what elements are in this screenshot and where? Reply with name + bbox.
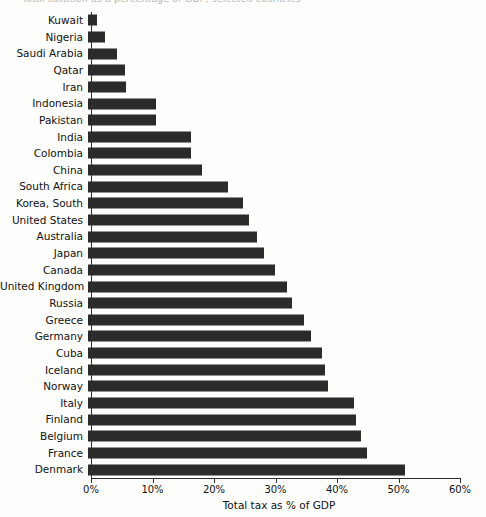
bar-chart-figure: Total taxation as a percentage of GDP, s… <box>0 0 486 517</box>
bar-row: Germany <box>0 328 486 345</box>
bar-track <box>88 62 486 79</box>
category-label: Belgium <box>0 431 88 442</box>
category-label: Greece <box>0 315 88 326</box>
bar-track <box>88 145 486 162</box>
category-label: India <box>0 132 88 143</box>
bar <box>88 464 405 475</box>
bar-track <box>88 411 486 428</box>
category-label: Japan <box>0 248 88 259</box>
category-label: Saudi Arabia <box>0 48 88 59</box>
bar-row: Denmark <box>0 461 486 478</box>
bar-row: Canada <box>0 262 486 279</box>
x-tick-mark <box>460 478 461 483</box>
bar-track <box>88 79 486 96</box>
category-label: Colombia <box>0 148 88 159</box>
category-label: Canada <box>0 265 88 276</box>
bar-row: Belgium <box>0 428 486 445</box>
bar <box>88 181 228 192</box>
bar-row: United Kingdom <box>0 278 486 295</box>
bar-track <box>88 328 486 345</box>
x-tick-mark <box>214 478 215 483</box>
bar <box>88 364 325 375</box>
x-tick-mark <box>337 478 338 483</box>
category-label: Norway <box>0 381 88 392</box>
category-label: Australia <box>0 231 88 242</box>
chart-title: Total taxation as a percentage of GDP, s… <box>22 0 301 4</box>
bar <box>88 65 125 76</box>
bar-row: Italy <box>0 395 486 412</box>
bar <box>88 348 322 359</box>
bar <box>88 431 361 442</box>
bar-track <box>88 228 486 245</box>
bar <box>88 98 156 109</box>
bar <box>88 165 202 176</box>
bar <box>88 398 354 409</box>
bar-row: Norway <box>0 378 486 395</box>
bar-track <box>88 95 486 112</box>
bar-row: United States <box>0 212 486 229</box>
bar <box>88 215 249 226</box>
bar-rows: KuwaitNigeriaSaudi ArabiaQatarIranIndone… <box>0 12 486 478</box>
x-tick-mark <box>153 478 154 483</box>
category-label: Finland <box>0 414 88 425</box>
x-tick-label: 0% <box>83 484 99 495</box>
bar-track <box>88 178 486 195</box>
bar-track <box>88 262 486 279</box>
category-label: Italy <box>0 398 88 409</box>
y-axis-line <box>91 12 92 478</box>
bar-row: Russia <box>0 295 486 312</box>
x-tick-label: 30% <box>264 484 286 495</box>
category-label: France <box>0 448 88 459</box>
bar-track <box>88 428 486 445</box>
bar-track <box>88 445 486 462</box>
bar-row: Pakistan <box>0 112 486 129</box>
bar-track <box>88 345 486 362</box>
bar-track <box>88 12 486 29</box>
category-label: United States <box>0 215 88 226</box>
bar-row: Saudi Arabia <box>0 45 486 62</box>
category-label: Pakistan <box>0 115 88 126</box>
plot-area: KuwaitNigeriaSaudi ArabiaQatarIranIndone… <box>0 12 486 478</box>
category-label: Indonesia <box>0 98 88 109</box>
x-tick-mark <box>399 478 400 483</box>
bar <box>88 231 257 242</box>
bar <box>88 248 264 259</box>
bar-track <box>88 461 486 478</box>
bar-row: Greece <box>0 312 486 329</box>
bar-track <box>88 361 486 378</box>
x-tick-label: 60% <box>449 484 471 495</box>
bar-row: Colombia <box>0 145 486 162</box>
bar-track <box>88 395 486 412</box>
bar-row: Finland <box>0 411 486 428</box>
bar-track <box>88 378 486 395</box>
category-label: Qatar <box>0 65 88 76</box>
category-label: United Kingdom <box>0 281 88 292</box>
bar-row: China <box>0 162 486 179</box>
category-label: Russia <box>0 298 88 309</box>
bar-track <box>88 162 486 179</box>
bar <box>88 414 356 425</box>
bar-row: Kuwait <box>0 12 486 29</box>
bar-row: Iceland <box>0 361 486 378</box>
bar-row: France <box>0 445 486 462</box>
bar <box>88 314 304 325</box>
bar <box>88 264 275 275</box>
bar-row: Indonesia <box>0 95 486 112</box>
bar-track <box>88 29 486 46</box>
category-label: Germany <box>0 331 88 342</box>
bar <box>88 15 97 26</box>
category-label: Iceland <box>0 365 88 376</box>
bar-row: Australia <box>0 228 486 245</box>
bar-row: Cuba <box>0 345 486 362</box>
bar-row: India <box>0 128 486 145</box>
bar-track <box>88 195 486 212</box>
bar-row: South Africa <box>0 178 486 195</box>
x-tick-label: 50% <box>387 484 409 495</box>
category-label: Iran <box>0 82 88 93</box>
bar-row: Qatar <box>0 62 486 79</box>
category-label: Nigeria <box>0 32 88 43</box>
category-label: South Africa <box>0 181 88 192</box>
bar <box>88 298 292 309</box>
x-tick-mark <box>276 478 277 483</box>
bar-track <box>88 312 486 329</box>
